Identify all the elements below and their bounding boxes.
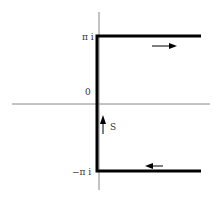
- label-s: S: [110, 122, 116, 132]
- arrow-right-icon: [152, 43, 177, 49]
- label-origin: 0: [85, 87, 91, 97]
- label-minus-pi-i: −π i: [72, 167, 91, 177]
- label-pi-i: π i: [82, 32, 94, 42]
- arrow-up-icon: [100, 115, 106, 134]
- contour-diagram: π i 0 S −π i: [0, 0, 214, 197]
- arrow-left-icon: [145, 163, 163, 169]
